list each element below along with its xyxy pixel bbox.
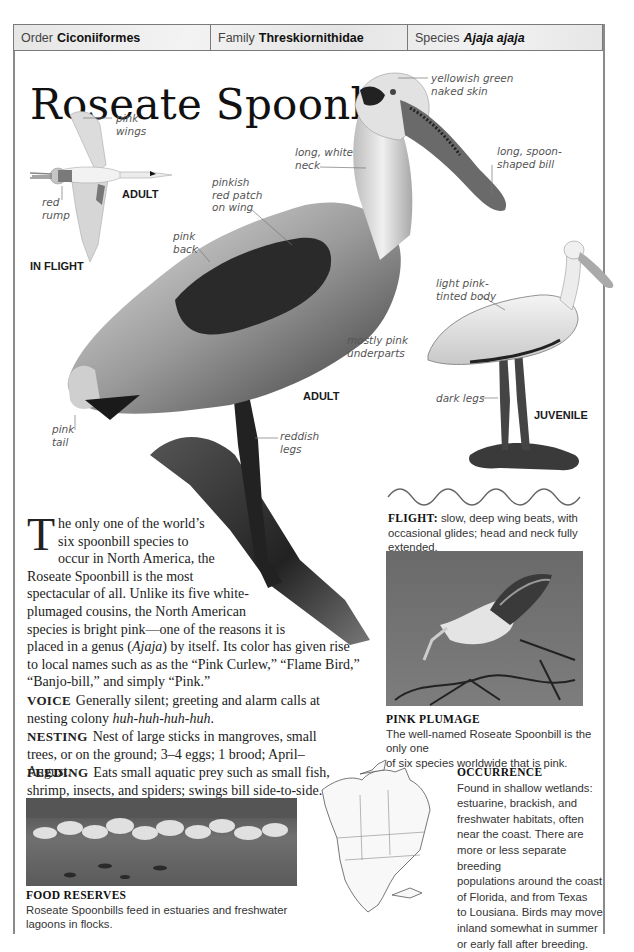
flight-heading: FLIGHT: (388, 512, 438, 524)
label-dark-legs: dark legs (436, 392, 484, 405)
label-pink-tail: pink tail (52, 423, 74, 448)
tag-juvenile: JUVENILE (534, 409, 588, 421)
drop-cap: T (27, 517, 55, 553)
pink-plumage-caption: PINK PLUMAGE The well-named Roseate Spoo… (386, 712, 606, 770)
label-red-rump: red rump (42, 196, 70, 221)
label-pink-wings: pink wings (116, 112, 146, 137)
range-map (322, 760, 430, 912)
label-underparts: mostly pink underparts (347, 334, 408, 359)
label-reddish-legs: reddish legs (280, 430, 319, 455)
voice-heading: VOICE (27, 693, 71, 708)
feeding-section: FEEDINGEats small aquatic prey such as s… (27, 764, 337, 799)
flight-caption: FLIGHT: slow, deep wing beats, with occa… (388, 511, 608, 555)
in-flight-bird-illustration (30, 112, 172, 262)
pink-plumage-photo (386, 551, 583, 706)
tag-in-flight-adult: ADULT (122, 188, 158, 200)
intro-paragraph: T he only one of the world’s six spoonbi… (27, 515, 327, 691)
feeding-heading: FEEDING (27, 765, 88, 780)
occurrence-section: OCCURRENCE Found in shallow wetlands: es… (457, 765, 607, 952)
voice-call: huh-huh-huh-huh (113, 711, 211, 726)
food-reserves-photo (26, 798, 297, 886)
voice-section: VOICEGenerally silent; greeting and alar… (27, 692, 337, 727)
food-reserves-heading: FOOD RESERVES (26, 889, 126, 901)
tag-in-flight: IN FLIGHT (30, 260, 84, 272)
label-long-white-neck: long, white neck (295, 146, 353, 171)
nesting-heading: NESTING (27, 729, 88, 744)
juvenile-bird-illustration (428, 241, 613, 470)
food-reserves-caption: FOOD RESERVES Roseate Spoonbills feed in… (26, 888, 326, 932)
genus-name: Ajaja (132, 639, 162, 654)
flight-pattern-wave (388, 489, 580, 505)
label-naked-skin: yellowish green naked skin (431, 72, 513, 97)
tag-adult: ADULT (303, 390, 339, 402)
occurrence-heading: OCCURRENCE (457, 766, 542, 778)
label-light-pink-body: light pink- tinted body (436, 277, 496, 302)
label-red-patch: pinkish red patch on wing (212, 176, 262, 214)
label-pink-back: pink back (173, 230, 198, 255)
label-spoon-bill: long, spoon- shaped bill (497, 145, 562, 170)
pink-plumage-heading: PINK PLUMAGE (386, 713, 480, 725)
